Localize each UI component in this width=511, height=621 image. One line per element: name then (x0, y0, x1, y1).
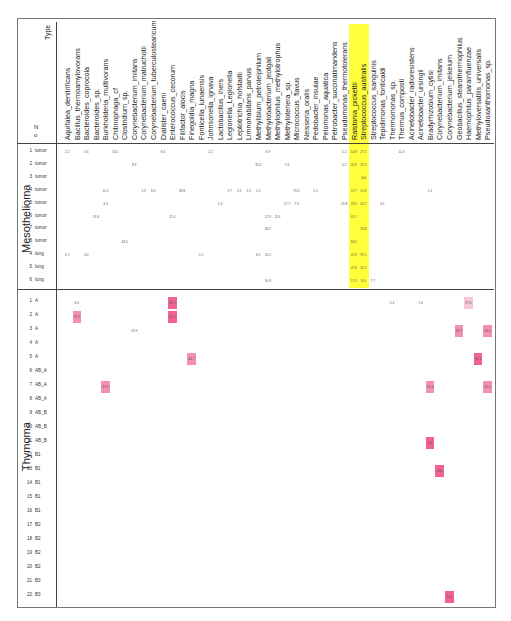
heatmap-cell: 23.9 (350, 199, 359, 210)
column-label: Methylobacterium_jeotgali (265, 57, 272, 141)
group-label-mesothelioma: Mesothelioma (20, 184, 32, 252)
heatmap-cell: 28.8 (178, 186, 187, 197)
row-type: tumor (35, 187, 47, 192)
row-number: 1 (18, 298, 32, 303)
heatmap-cell: 1.3 (139, 186, 148, 197)
header-divider (17, 143, 494, 144)
heatmap-cell: 30.9 (264, 276, 273, 287)
heatmap-cell: 1.7 (225, 186, 234, 197)
heatmap-cell: 5.2 (340, 160, 349, 171)
heatmap-cell: 64.5 (350, 237, 359, 248)
column-label: Lactobacillus_iners (217, 79, 224, 140)
row-type: B1 (35, 508, 41, 513)
heatmap-cell: 34.5 (120, 237, 129, 248)
heatmap-cell: 8.3 (130, 160, 139, 171)
column-label: Limnohabitans_parvus (245, 68, 252, 140)
row-number: 5 (18, 264, 32, 269)
column-label: Corynebacterium_jeikeium (446, 55, 453, 140)
heatmap-cell: 51.1 (474, 353, 483, 365)
heatmap-cell: 52.2 (359, 263, 368, 274)
heatmap-cell: 1.6 (216, 199, 225, 210)
row-type: AB_B (35, 438, 47, 443)
column-label: Pseudoxanthomonas_sp. (484, 59, 491, 140)
heatmap-cell: 11.8 (359, 186, 368, 197)
column-label: Neisseria_oralis (303, 89, 310, 140)
column-label: Chitinophaga_cf (112, 88, 119, 140)
heatmap-cell: 27.6 (464, 297, 473, 309)
column-label: Methylotenera_sp. (284, 81, 291, 140)
column-label: Finegoldia_magna (188, 81, 195, 140)
heatmap-cell: 11.6 (397, 147, 406, 158)
heatmap-cell: 7.4 (416, 297, 425, 309)
row-type: A (35, 340, 38, 345)
column-label: Clostridium_sp. (121, 90, 128, 140)
heatmap-cell: 0.7 (63, 250, 72, 261)
row-type: tumor (35, 161, 47, 166)
heatmap-cell: 30.3 (483, 381, 492, 393)
row-number: 4 (18, 340, 32, 345)
row-type: tumor (35, 225, 47, 230)
group-label-thymoma: Thymoma (20, 422, 32, 471)
row-number: 18 (18, 536, 32, 541)
n-header-label: N (34, 124, 38, 130)
heatmap-cell: 3.3 (101, 199, 110, 210)
column-label: Legionella_Legionella (226, 70, 233, 140)
type-header-label: Type (44, 25, 51, 40)
heatmap-cell: 100 (435, 465, 444, 477)
column-label: Filifactor_alocis (179, 90, 186, 140)
column-label: Corynebacterium_imitans (131, 59, 138, 141)
heatmap-cell: 2.1 (426, 186, 435, 197)
column-label: Corynebacterium_tuberculostearicum (150, 21, 157, 140)
heatmap-cell: 7.3 (283, 160, 292, 171)
heatmap-cell: 14.8 (350, 147, 359, 158)
column-label: Thermomonas_sp. (389, 80, 396, 140)
row-number: 14 (18, 480, 32, 485)
heatmap-cell: 31.0 (254, 160, 263, 171)
heatmap-cell: 100 (445, 591, 454, 603)
column-label: Thermus_composti (398, 79, 405, 140)
row-number: 3 (18, 174, 32, 179)
row-type: B2 (35, 564, 41, 569)
heatmap-cell: 8.5 (149, 186, 158, 197)
row-type: B1 (35, 466, 41, 471)
row-number: 22 (18, 592, 32, 597)
row-type: A (35, 298, 38, 303)
heatmap-cell: 22.9 (350, 250, 359, 261)
row-type: AB_A (35, 368, 47, 373)
column-label: Petrobacter_succinatimandens (331, 41, 338, 140)
heatmap-cell: 44.4 (483, 325, 492, 337)
heatmap-cell: 6.9 (264, 147, 273, 158)
column-label: Enterococcus_cecorum (169, 65, 176, 140)
heatmap-cell: 7.3 (292, 199, 301, 210)
heatmap-cell: 46.2 (264, 224, 273, 235)
heatmap-cell: 100 (359, 173, 368, 184)
row-type: B2 (35, 522, 41, 527)
heatmap-cell: 2.2 (63, 147, 72, 158)
heatmap-cell: 61.7 (350, 212, 359, 223)
row-number: 19 (18, 550, 32, 555)
heatmap-cell: 8.1 (254, 250, 263, 261)
column-label: Tepidimonas_fonticaldi (379, 67, 386, 140)
row-label-divider (56, 22, 57, 607)
row-type: tumor (35, 148, 47, 153)
heatmap-cell: 24.7 (359, 199, 368, 210)
column-label: Geobacillus_stearothermophilus (456, 37, 463, 140)
column-label: Corynebacterium_matruchotii (140, 46, 147, 140)
group-divider (17, 289, 494, 290)
heatmap-cell: 7.7 (369, 276, 378, 287)
row-type: B2 (35, 550, 41, 555)
row-number: 17 (18, 522, 32, 527)
row-type: A (35, 354, 38, 359)
row-number: 21 (18, 578, 32, 583)
heatmap-cell: 6.1 (378, 199, 387, 210)
heatmap-cell: 5.2 (340, 147, 349, 158)
heatmap-cell: 17.5 (350, 276, 359, 287)
row-type: AB_A (35, 396, 47, 401)
column-label: Bacillus_thermoamylovorans (74, 48, 81, 140)
heatmap-cell: 44.7 (187, 353, 196, 365)
row-type: lung (35, 264, 44, 269)
row-number: 5 (18, 354, 32, 359)
heatmap-cell: 25.5 (359, 160, 368, 171)
column-label: Burkholderia_multivorans (102, 59, 109, 140)
row-number: 16 (18, 508, 32, 513)
